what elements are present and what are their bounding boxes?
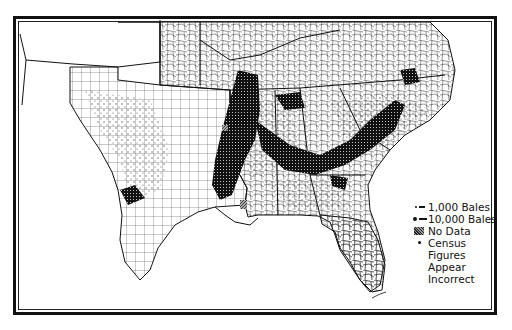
large-dot-icon bbox=[413, 213, 428, 225]
legend-label: 10,000 Bales bbox=[428, 213, 497, 225]
legend-item-1000-bales: 1,000 Bales bbox=[413, 201, 497, 213]
legend-label: No Data bbox=[428, 225, 471, 237]
legend-item-no-data: No Data bbox=[413, 225, 497, 237]
legend-label-continued: Appear bbox=[413, 261, 497, 273]
legend-item-census-incorrect: Census bbox=[413, 237, 497, 249]
legend-item-10000-bales: 10,000 Bales bbox=[413, 213, 497, 225]
asterisk-icon bbox=[413, 237, 428, 249]
legend-label-continued: Incorrect bbox=[413, 273, 497, 285]
hatched-square-icon bbox=[413, 225, 428, 237]
small-dot-icon bbox=[413, 201, 428, 213]
legend-label: 1,000 Bales bbox=[428, 201, 490, 213]
legend-label-continued: Figures bbox=[413, 249, 497, 261]
legend-label: Census bbox=[428, 237, 466, 249]
map-legend: 1,000 Bales 10,000 Bales No Data Census … bbox=[413, 201, 497, 285]
